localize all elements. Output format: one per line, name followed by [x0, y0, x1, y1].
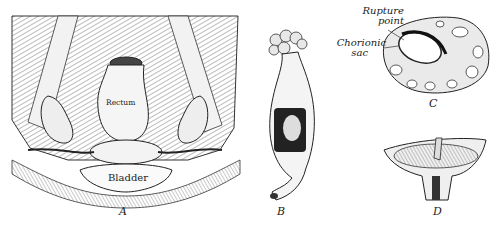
- panel-letter-a: A: [119, 205, 127, 218]
- chorionic-label-line2: sac: [326, 48, 386, 58]
- panel-letter-d: D: [433, 205, 442, 218]
- bowl-drawing: [382, 130, 490, 202]
- bladder-label: Bladder: [108, 172, 148, 183]
- tube-drawing: [262, 28, 332, 203]
- rupture-label-line2: point: [340, 16, 404, 26]
- panel-b-tube-illustration: [262, 28, 332, 203]
- panel-letter-c: C: [429, 97, 437, 110]
- panel-a-pelvis-illustration: Rectum Bladder: [8, 10, 244, 210]
- panel-letter-b: B: [277, 205, 285, 218]
- rupture-point-label: Rupture point: [340, 6, 404, 26]
- panel-d-section-illustration: [382, 130, 490, 202]
- chorionic-sac-label: Chorionic sac: [326, 38, 386, 58]
- label-leader-lines: [384, 28, 414, 58]
- rectum-label: Rectum: [106, 98, 135, 107]
